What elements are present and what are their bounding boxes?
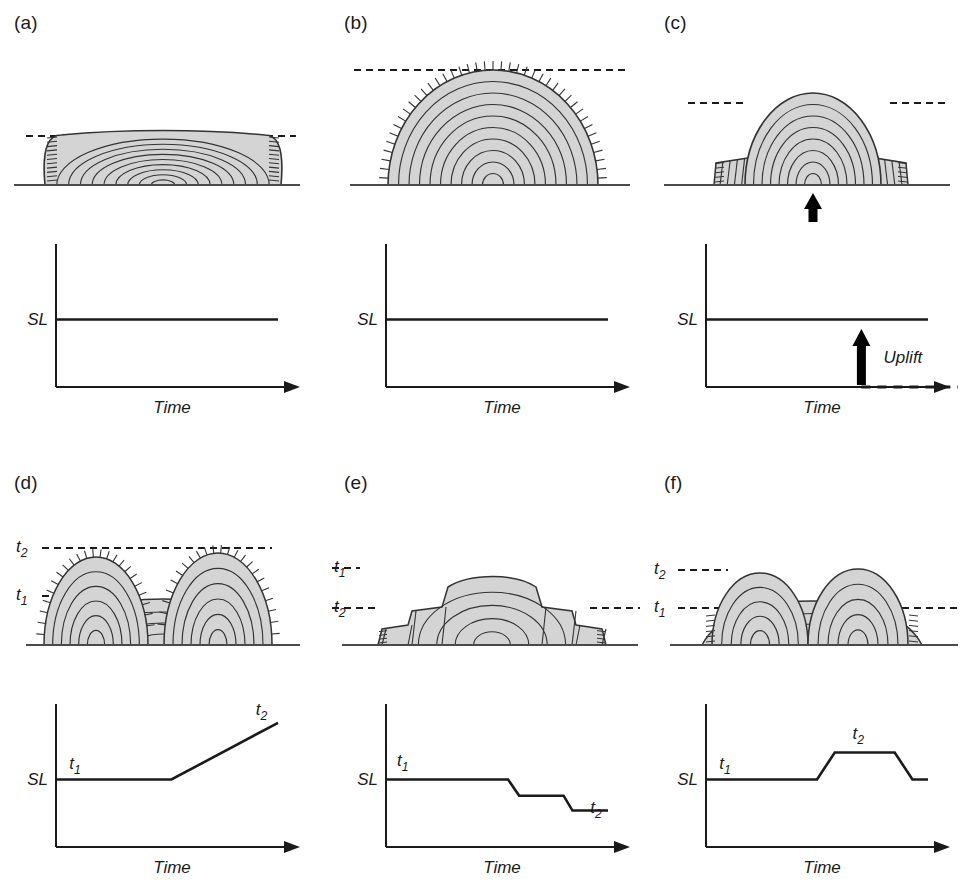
section-t1-line-d: t1 [16, 585, 28, 608]
t1-label: t1 [719, 754, 731, 777]
x-axis-arrowhead [614, 841, 630, 853]
cross-section-d: t2t1 [0, 460, 322, 682]
sealevel-chart-c: SLTimeUplift [650, 222, 965, 422]
sl-axis-label: SL [677, 770, 698, 789]
sealevel-chart-a: SLTime [0, 222, 322, 422]
uplift-label: Uplift [884, 348, 924, 367]
t2-label: t2 [590, 798, 602, 821]
time-axis-label: Time [483, 858, 521, 877]
sea-level-curve [706, 753, 928, 780]
t2-label: t2 [256, 700, 268, 723]
x-axis-arrowhead [614, 381, 630, 393]
cross-section-e: t1t2 [330, 460, 652, 682]
uplift-arrow [852, 329, 870, 385]
cross-section-c [650, 0, 965, 222]
panel-d: (d)t2t1SLTimet1t2 [0, 460, 322, 885]
time-axis-label: Time [153, 858, 191, 877]
x-axis-arrowhead [934, 841, 950, 853]
x-axis-arrowhead [284, 381, 300, 393]
x-axis-arrowhead [284, 841, 300, 853]
sealevel-chart-b: SLTime [330, 222, 652, 422]
sl-axis-label: SL [357, 770, 378, 789]
time-axis-label: Time [803, 858, 841, 877]
sl-axis-label: SL [357, 310, 378, 329]
cross-section-f: t2t1 [650, 460, 965, 682]
panel-c: (c)SLTimeUplift [650, 0, 965, 425]
time-axis-label: Time [153, 398, 191, 417]
section-t2-line-e: t2 [334, 597, 346, 620]
section-t2-line-f: t2 [654, 559, 666, 582]
panel-e: (e)t1t2SLTimet1t2 [330, 460, 652, 885]
section-t1-line-f: t1 [654, 597, 666, 620]
t1-label: t1 [69, 754, 81, 777]
panel-b: (b)SLTime [330, 0, 652, 425]
time-axis-label: Time [483, 398, 521, 417]
sealevel-chart-e: SLTimet1t2 [330, 682, 652, 882]
sealevel-chart-f: SLTimet1t2 [650, 682, 965, 882]
section-t1-line-e: t1 [334, 557, 346, 580]
cross-section-a [0, 0, 322, 222]
cross-section-b [330, 0, 652, 222]
figure-root: (a)SLTime(b)SLTime(c)SLTimeUplift(d)t2t1… [0, 0, 965, 885]
sealevel-chart-d: SLTimet1t2 [0, 682, 322, 882]
panel-f: (f)t2t1SLTimet1t2 [650, 460, 965, 885]
sl-axis-label: SL [677, 310, 698, 329]
section-t2-line-d: t2 [16, 537, 28, 560]
t1-label: t1 [397, 751, 409, 774]
sea-level-curve [56, 723, 278, 780]
time-axis-label: Time [803, 398, 841, 417]
panel-a: (a)SLTime [0, 0, 322, 425]
t2-label: t2 [853, 724, 865, 747]
sea-level-curve [386, 780, 608, 811]
sl-axis-label: SL [27, 310, 48, 329]
sl-axis-label: SL [27, 770, 48, 789]
